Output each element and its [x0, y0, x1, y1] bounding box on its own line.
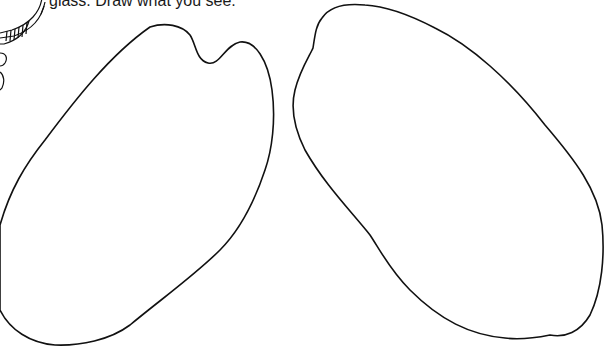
worksheet-canvas [0, 0, 605, 347]
left-drawing-area[interactable] [0, 25, 274, 345]
magnifying-glass-icon [0, 0, 45, 90]
right-drawing-area[interactable] [293, 4, 603, 338]
